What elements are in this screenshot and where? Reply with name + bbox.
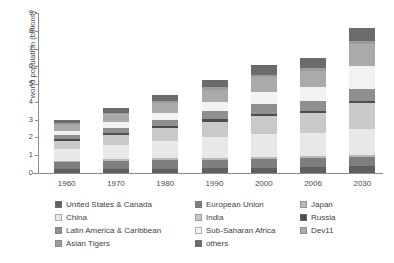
bar-segment [300,133,326,156]
legend-item[interactable]: Dev11 [300,227,385,235]
y-tick-mark [35,13,38,14]
chart-legend: United States & CanadaEuropean UnionJapa… [55,198,385,250]
bar-segment [202,102,228,111]
bar-segment [349,129,375,155]
bar-2030[interactable] [349,28,375,173]
bar-segment [152,141,178,158]
y-tick-label: 4 [17,98,33,106]
legend-item[interactable]: Latin America & Caribbean [55,227,195,235]
legend-label: Japan [311,201,333,209]
bar-segment [152,169,178,173]
bar-segment [54,169,80,173]
bar-segment [202,137,228,157]
bar-segment [300,87,326,101]
bar-segment [300,71,326,87]
bar-segment [300,101,326,111]
y-axis-line [38,13,39,174]
y-tick-label: 3 [17,116,33,124]
bar-segment [103,169,129,173]
legend-label: United States & Canada [66,201,152,209]
x-tick-label: 2006 [291,180,335,188]
bar-segment [54,141,80,149]
x-axis-line [33,173,383,174]
legend-label: Asian Tigers [66,240,110,248]
legend-item[interactable]: Russia [300,214,385,222]
legend-swatch-icon [195,240,202,247]
bar-segment [349,44,375,67]
bar-segment [349,66,375,88]
legend-swatch-icon [195,201,202,208]
legend-swatch-icon [300,201,307,208]
legend-swatch-icon [55,240,62,247]
bar-segment [152,103,178,113]
legend-label: China [66,214,87,222]
bar-segment [251,116,277,134]
legend-swatch-icon [195,227,202,234]
x-tick-label: 2000 [242,180,286,188]
x-tick-label: 2030 [340,180,384,188]
bar-1960[interactable] [54,120,80,173]
y-tick-label: 5 [17,80,33,88]
bar-segment [54,162,80,169]
legend-item[interactable]: United States & Canada [55,201,195,209]
bar-2006[interactable] [300,58,326,173]
bar-1970[interactable] [103,108,129,173]
y-tick-label: 8 [17,27,33,35]
y-tick-mark [35,155,38,156]
legend-swatch-icon [300,214,307,221]
y-tick-mark [35,120,38,121]
bar-segment [103,114,129,122]
legend-label: Sub-Saharan Africa [206,227,275,235]
legend-item[interactable]: India [195,214,300,222]
legend-swatch-icon [300,227,307,234]
bar-segment [349,28,375,41]
bar-segment [251,77,277,92]
bar-segment [103,135,129,145]
bar-segment [103,145,129,160]
y-tick-label: 7 [17,45,33,53]
y-tick-mark [35,31,38,32]
y-tick-label: 9 [17,9,33,17]
bar-segment [251,92,277,104]
x-tick-label: 1990 [193,180,237,188]
y-tick-label: 6 [17,62,33,70]
y-tick-label: 0 [17,169,33,177]
legend-swatch-icon [55,227,62,234]
legend-label: Dev11 [311,227,334,235]
bar-segment [152,160,178,168]
bar-segment [251,168,277,174]
bar-segment [202,160,228,168]
legend-item[interactable]: European Union [195,201,300,209]
bar-1980[interactable] [152,95,178,173]
bar-segment [54,149,80,161]
bar-segment [152,113,178,120]
legend-item[interactable]: Asian Tigers [55,240,195,248]
legend-item[interactable]: others [195,240,300,248]
bar-2000[interactable] [251,65,277,173]
bar-segment [349,89,375,101]
y-tick-mark [35,173,38,174]
y-tick-label: 2 [17,133,33,141]
legend-label: India [206,214,223,222]
legend-swatch-icon [55,201,62,208]
legend-item[interactable]: Japan [300,201,385,209]
legend-swatch-icon [195,214,202,221]
bar-segment [300,58,326,68]
chart-page: world population (billions) 0123456789 1… [0,0,394,263]
legend-label: Russia [311,214,335,222]
y-tick-mark [35,102,38,103]
y-tick-label: 1 [17,151,33,159]
legend-item[interactable]: Sub-Saharan Africa [195,227,300,235]
bar-segment [251,134,277,157]
bar-segment [202,80,228,88]
bar-segment [251,159,277,168]
bar-1990[interactable] [202,80,228,173]
bar-segment [152,128,178,140]
bar-segment [202,122,228,137]
x-tick-label: 1960 [45,180,89,188]
legend-label: European Union [206,201,264,209]
bar-segment [349,157,375,166]
y-tick-mark [35,66,38,67]
bar-segment [349,166,375,173]
legend-item[interactable]: China [55,214,195,222]
